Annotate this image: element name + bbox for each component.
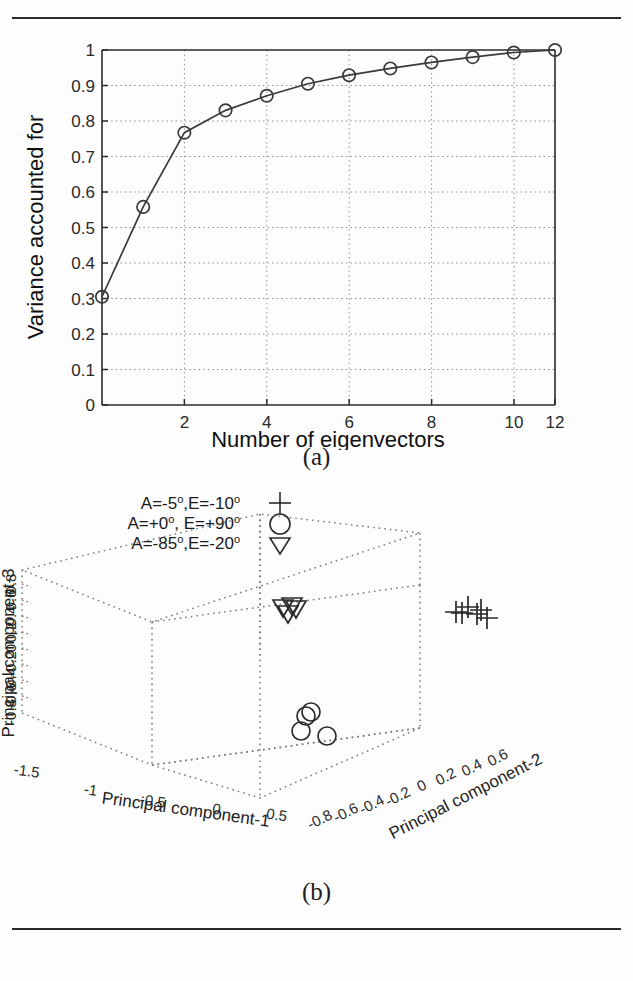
variance-data-markers — [96, 44, 561, 303]
page-rule-top — [12, 17, 621, 19]
y-tick-label: 0.5 — [71, 219, 95, 238]
chart-grid — [102, 50, 555, 405]
data-point-marker — [318, 727, 336, 745]
figure-b-pca-3d-plot: A=-5o,E=-10o A=+0o, E=+90o A=-85o,E=-20o — [0, 488, 633, 868]
variance-chart-svg: 0 0.1 0.2 0.3 0.4 0.5 0.6 0.7 0.8 0.9 1 … — [0, 30, 633, 450]
data-point-marker — [292, 722, 310, 740]
legend-marker-triangle-down-icon — [270, 538, 290, 554]
data-point-marker — [451, 602, 473, 624]
legend-marker-plus-icon — [269, 492, 291, 514]
plot-box-3d — [22, 514, 420, 798]
legend-label-0: A=-5o,E=-10o — [141, 493, 240, 513]
pca-data-markers — [273, 596, 498, 745]
y-tick-label: 0.7 — [71, 148, 95, 167]
x-axis-title-3d: Principal component-1 — [101, 788, 271, 830]
x-tick-label: -1 — [83, 780, 99, 799]
pca-3d-svg: A=-5o,E=-10o A=+0o, E=+90o A=-85o,E=-20o — [0, 488, 633, 868]
data-point-marker — [302, 703, 320, 721]
x-tick-label: 2 — [180, 413, 189, 432]
y-tick-label: 0 — [86, 396, 95, 415]
figure-a-variance-plot: 0 0.1 0.2 0.3 0.4 0.5 0.6 0.7 0.8 0.9 1 … — [0, 30, 633, 450]
legend-label-2: A=-85o,E=-20o — [131, 533, 240, 553]
legend: A=-5o,E=-10o A=+0o, E=+90o A=-85o,E=-20o — [128, 492, 291, 554]
y-axis-title: Variance accounted for — [23, 115, 48, 340]
y-tick-label: 0.9 — [71, 77, 95, 96]
y-axis-tick-labels: 0 0.1 0.2 0.3 0.4 0.5 0.6 0.7 0.8 0.9 1 — [71, 41, 95, 415]
y-tick-label: 0.4 — [458, 755, 484, 780]
y-tick-label: 0.3 — [71, 290, 95, 309]
z-axis-title-3d: Principal component-3 — [0, 568, 18, 737]
x-tick-label: 12 — [546, 413, 565, 432]
y-tick-label: 0.8 — [71, 112, 95, 131]
x-tick-label: 10 — [505, 413, 524, 432]
y-tick-label: 1 — [86, 41, 95, 60]
page-rule-bottom — [12, 928, 621, 930]
y-tick-label: 0.2 — [432, 764, 458, 789]
y-tick-label: -0.2 — [382, 783, 413, 810]
y-tick-label: 0.2 — [71, 325, 95, 344]
x-tick-label: -1.5 — [13, 760, 41, 780]
z-axis-ticks — [22, 584, 31, 699]
y-tick-label: 0.1 — [71, 361, 95, 380]
figure-a-caption: (a) — [0, 443, 633, 471]
figure-page: 0 0.1 0.2 0.3 0.4 0.5 0.6 0.7 0.8 0.9 1 … — [0, 0, 633, 981]
y-tick-label: 0.4 — [71, 254, 95, 273]
y-tick-label: 0.6 — [71, 183, 95, 202]
figure-b-caption: (b) — [0, 878, 633, 906]
data-point-marker — [445, 601, 467, 623]
legend-label-1: A=+0o, E=+90o — [128, 513, 240, 533]
variance-line-series — [102, 50, 555, 297]
y-tick-label: 0 — [414, 776, 429, 795]
